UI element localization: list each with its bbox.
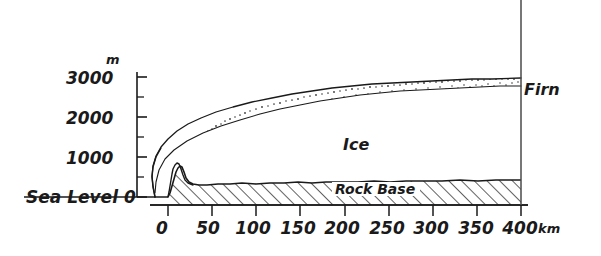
y-axis-unit-label: m: [106, 52, 120, 67]
firn-layer-label: Firn: [524, 80, 560, 99]
x-tick-label-50: 50: [196, 218, 220, 238]
x-tick-label-200: 200: [324, 218, 360, 238]
x-tick-label-0: 0: [156, 218, 168, 238]
y-tick-label-2000: 2000: [66, 108, 113, 128]
x-tick-label-150: 150: [280, 218, 316, 238]
ice-layer-label: Ice: [343, 135, 369, 154]
x-axis-unit-label: km: [538, 221, 560, 236]
x-tick-label-400: 400: [501, 218, 538, 238]
y-tick-label-1000: 1000: [66, 148, 113, 168]
y-tick-label-3000: 3000: [66, 68, 113, 88]
x-tick-label-300: 300: [413, 218, 449, 238]
diagram-canvas: m 3000 2000 1000 Sea Level 0 0 50 100 15…: [0, 0, 601, 256]
glacier-cross-section-figure: m 3000 2000 1000 Sea Level 0 0 50 100 15…: [0, 0, 601, 256]
x-tick-label-100: 100: [235, 218, 271, 238]
y-tick-label-sea-level: Sea Level 0: [26, 187, 136, 207]
x-tick-label-250: 250: [369, 218, 405, 238]
rock-base-label: Rock Base: [335, 181, 415, 197]
x-tick-label-350: 350: [458, 218, 494, 238]
